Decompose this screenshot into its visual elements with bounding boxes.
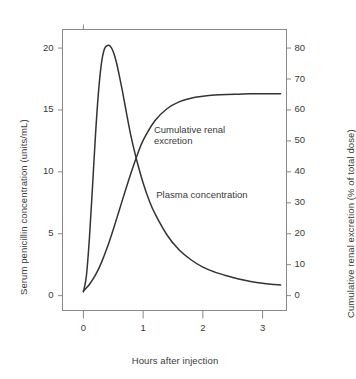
right-tick-label-50: 50 [295,134,325,145]
right-axis-title: Cumulative renal excretion (% of total d… [345,129,356,318]
left-axis-title: Serum penicillin concentration (units/mL… [18,119,29,295]
x-axis-title: Hours after injection [0,355,350,366]
right-tick-label-60: 60 [295,103,325,114]
left-tick-label-15: 15 [24,103,54,114]
right-tick-label-0: 0 [295,289,325,300]
right-tick-label-20: 20 [295,227,325,238]
plasma-concentration-label: Plasma concentration [156,189,247,201]
right-tick-label-10: 10 [295,258,325,269]
right-tick-label-80: 80 [295,42,325,53]
x-tick-label-2: 2 [188,322,218,333]
right-tick-label-40: 40 [295,165,325,176]
x-tick-label-3: 3 [248,322,278,333]
cumulative-renal-excretion-label: Cumulative renal excretion [154,124,225,147]
right-tick-label-70: 70 [295,73,325,84]
right-tick-label-30: 30 [295,196,325,207]
left-tick-label-20: 20 [24,42,54,53]
x-tick-label-1: 1 [128,322,158,333]
x-tick-label-0: 0 [68,322,98,333]
